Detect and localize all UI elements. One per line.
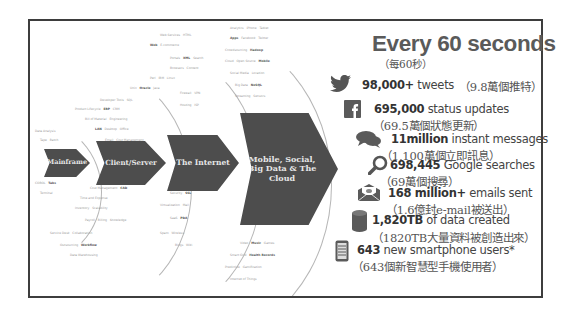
era-label: The Internet <box>176 159 229 168</box>
era-label: Client/Server <box>105 159 157 167</box>
stat-status-updates-zh: （69.5萬個狀態更新） <box>373 117 484 133</box>
stat-google-searches: 698,445 Google searches <box>390 158 535 172</box>
smartphone-icon <box>335 240 349 262</box>
stat-tweets: 98,000+ tweets <box>362 78 454 92</box>
database-icon <box>352 210 367 232</box>
chat-bubbles-icon <box>356 129 382 149</box>
era-label: Mobile, Social,Big Data & The Cloud <box>240 155 324 183</box>
stat-smartphone-users: 643 new smartphone users* <box>357 243 515 257</box>
stat-emails-sent: 168 million+ emails sent <box>388 186 532 200</box>
headline-subtitle: （每60秒） <box>379 56 432 71</box>
envelope-icon <box>358 184 380 201</box>
stat-smartphone-users-zh: （643個新智慧型手機使用者） <box>352 258 503 274</box>
stat-status-updates: 695,000 status updates <box>374 102 509 116</box>
stat-instant-messages: 11million instant messages <box>391 132 548 146</box>
headline-title: Every 60 seconds <box>372 31 556 57</box>
facebook-icon <box>344 100 361 118</box>
magnifier-icon <box>368 155 388 175</box>
stat-data-created: 1,820TB of data created <box>372 213 510 227</box>
stat-tweets-zh: （9.8萬個推特） <box>459 78 542 94</box>
twitter-bird-icon <box>330 75 352 93</box>
era-label: Mainframe <box>47 159 87 166</box>
